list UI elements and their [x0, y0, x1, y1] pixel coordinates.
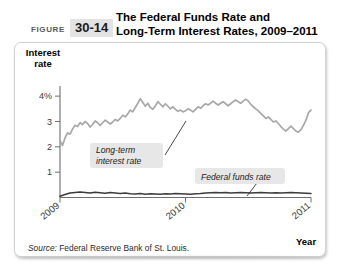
- figure-container: FIGURE 30-14 The Federal Funds Rate and …: [0, 0, 341, 277]
- figure-title-line2: Long-Term Interest Rates, 2009–2011: [116, 25, 341, 39]
- x-tick-label: 2011: [290, 200, 313, 222]
- annotation-fed-funds: Federal funds rate: [195, 168, 285, 184]
- line-chart-plot: 4%321 200920102011 Long-term interest ra…: [14, 42, 326, 257]
- annotation-long-term: Long-term interest rate: [90, 143, 163, 168]
- y-tick-label: 2: [47, 142, 52, 152]
- series-federal-funds-rate: [60, 192, 311, 196]
- x-axis-ticks: 200920102011: [38, 198, 312, 222]
- leader-line-fed-funds: [247, 183, 257, 196]
- x-axis-title: Year: [296, 236, 316, 247]
- annotation-long-term-line2: interest rate: [96, 156, 142, 166]
- source-prefix: Source:: [28, 243, 57, 253]
- annotation-long-term-line1: Long-term: [96, 145, 135, 155]
- figure-number-badge: 30-14: [70, 19, 113, 37]
- y-tick-label: 4%: [39, 91, 52, 101]
- x-tick-label: 2010: [164, 200, 187, 222]
- source-text: Federal Reserve Bank of St. Louis.: [57, 243, 189, 253]
- y-axis-ticks: 4%321: [39, 91, 60, 177]
- figure-header: FIGURE 30-14 The Federal Funds Rate and …: [0, 8, 341, 40]
- x-tick-label: 2009: [38, 200, 61, 222]
- source-note: Source: Federal Reserve Bank of St. Loui…: [28, 243, 189, 253]
- figure-title-line1: The Federal Funds Rate and: [116, 11, 341, 25]
- figure-word-label: FIGURE: [31, 25, 65, 34]
- figure-title: The Federal Funds Rate and Long-Term Int…: [116, 11, 341, 38]
- y-tick-label: 1: [47, 167, 52, 177]
- leader-line-long-term: [165, 121, 186, 155]
- y-tick-label: 3: [47, 117, 52, 127]
- annotation-fed-funds-label: Federal funds rate: [201, 172, 271, 182]
